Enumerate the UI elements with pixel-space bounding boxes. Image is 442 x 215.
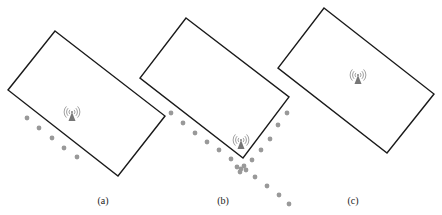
measurement-dot <box>259 148 264 153</box>
panel-label-c: (c) <box>347 195 358 206</box>
measurement-dot <box>217 148 222 153</box>
measurement-dot <box>253 175 258 180</box>
panel-label-b: (b) <box>217 195 229 206</box>
measurement-dot <box>287 202 292 207</box>
wireless-tower-icon <box>233 134 249 149</box>
measurement-dot <box>62 146 67 151</box>
diagram-canvas <box>0 0 442 215</box>
panel-b <box>140 18 291 206</box>
building-outline <box>8 31 165 176</box>
panel-label-a: (a) <box>97 195 108 206</box>
measurement-dot <box>37 126 42 131</box>
measurement-dot <box>229 157 234 162</box>
wireless-tower-icon <box>350 69 366 84</box>
measurement-dot <box>276 123 281 128</box>
measurement-dot <box>238 170 243 175</box>
measurement-dot <box>265 184 270 189</box>
measurement-dot <box>285 111 290 116</box>
panel-a <box>8 31 165 176</box>
measurement-dot <box>50 136 55 141</box>
panel-c <box>278 8 434 153</box>
measurement-dot <box>169 111 174 116</box>
building-outline <box>140 18 289 158</box>
measurement-dot <box>250 158 255 163</box>
wireless-tower-icon <box>64 106 80 121</box>
measurement-dot <box>25 116 30 121</box>
measurement-dot <box>193 131 198 136</box>
measurement-dot <box>268 137 273 142</box>
measurement-dot <box>244 168 249 173</box>
measurement-dot <box>277 193 282 198</box>
measurement-dot <box>181 121 186 126</box>
measurement-dot <box>75 155 80 160</box>
measurement-dot <box>205 140 210 145</box>
